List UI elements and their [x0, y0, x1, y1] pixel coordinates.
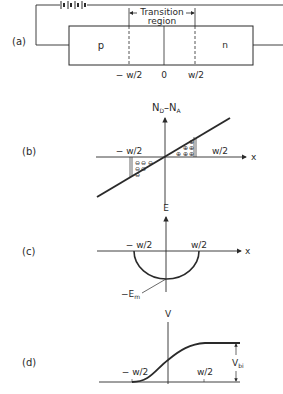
peak-field-label: −Em — [121, 289, 140, 300]
built-in-voltage-label: Vbi — [232, 358, 244, 369]
tick-neg-w2: − w/2 — [122, 367, 149, 377]
tick-neg-w2: − w/2 — [116, 146, 143, 156]
field-profile-curve — [134, 251, 199, 279]
n-region-label: n — [222, 40, 228, 50]
panel-b-label: (b) — [22, 146, 36, 157]
tick-neg-w2: − w/2 — [116, 70, 143, 80]
tick-pos-w2: w/2 — [191, 240, 207, 250]
region-label: region — [148, 16, 176, 26]
svg-text:⊕: ⊕ — [176, 150, 181, 157]
x-axis-label: x — [245, 246, 251, 256]
tick-zero: 0 — [161, 70, 167, 80]
peak-leader-line — [142, 279, 166, 293]
panel-d-label: (d) — [22, 357, 36, 368]
panel-d: (d) V Vbi − w/2 w/2 — [22, 309, 244, 384]
tick-neg-w2: − w/2 — [126, 240, 153, 250]
panel-a-label: (a) — [12, 36, 26, 47]
y-axis-label: E — [163, 203, 169, 213]
svg-text:⊕: ⊕ — [189, 150, 194, 157]
p-region-label: p — [98, 40, 104, 51]
tick-pos-w2: w/2 — [197, 367, 213, 377]
pn-junction-diagram: (a) Transition region p — [0, 0, 283, 394]
tick-pos-w2: w/2 — [188, 70, 204, 80]
panel-c: (c) E x − w/2 w/2 −Em — [22, 203, 251, 300]
panel-a: (a) Transition region p — [12, 1, 283, 80]
y-axis-label: ND–NA — [152, 102, 182, 114]
doping-profile-line — [97, 118, 230, 197]
y-axis-label: V — [165, 309, 172, 319]
battery-icon — [61, 1, 85, 9]
panel-b: (b) ND–NA ⊖ ⊖ ⊖ ⊖ ⊖ ⊖ ⊕ ⊕ ⊕ ⊕ ⊕ ⊕ x — [22, 102, 257, 205]
x-axis-label: x — [251, 152, 257, 162]
svg-text:⊕: ⊕ — [183, 150, 188, 157]
tick-pos-w2: w/2 — [212, 146, 228, 156]
panel-c-label: (c) — [22, 246, 35, 257]
